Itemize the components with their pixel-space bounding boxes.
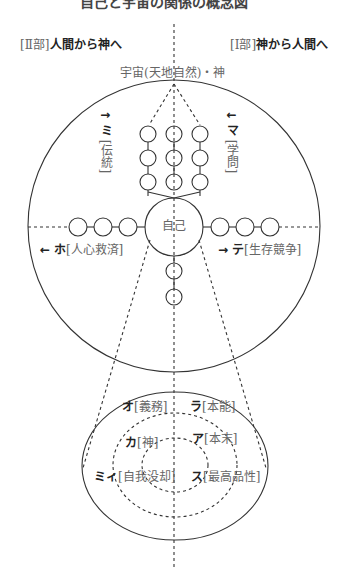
up-arrow-icon: ↑: [98, 110, 112, 120]
down-chain: [166, 256, 182, 305]
competition-label: → テ[生存競争]: [218, 243, 301, 257]
part-1-header: [Ⅰ部]神から人間へ: [230, 38, 328, 52]
middle-ellipse: [113, 413, 237, 517]
tradition-label: ↑ ミ [伝統]: [98, 110, 111, 173]
tradition-chain: [140, 126, 156, 196]
instinct-label: ラ[本能]: [190, 400, 235, 414]
salvation-label: ← ホ[人心救済]: [40, 243, 123, 257]
outer-ellipse: [82, 392, 268, 540]
root-branch-label: ア[本末]: [192, 432, 237, 446]
selflessness-label: ミィ[自我没却]: [94, 470, 175, 484]
left-arrow-icon: ←: [40, 243, 50, 257]
right-arrow-icon: →: [218, 243, 228, 257]
salvation-chain: [69, 218, 145, 236]
duty-label: オ[義務]: [122, 400, 167, 414]
part-2-header: [Ⅱ部]人間から神へ: [20, 38, 122, 52]
learning-chain: [192, 126, 208, 196]
learning-label: ↓ マ [学問]: [224, 110, 237, 173]
god-label: カ[神]: [125, 436, 158, 450]
competition-chain: [203, 218, 279, 236]
highest-character-label: ス[最高品性]: [191, 470, 260, 484]
universe-label: 宇宙(天地自然)・神: [120, 66, 225, 80]
diagram-canvas: [0, 0, 350, 570]
self-label: 自己: [162, 219, 186, 233]
down-arrow-icon: ↓: [224, 110, 238, 120]
